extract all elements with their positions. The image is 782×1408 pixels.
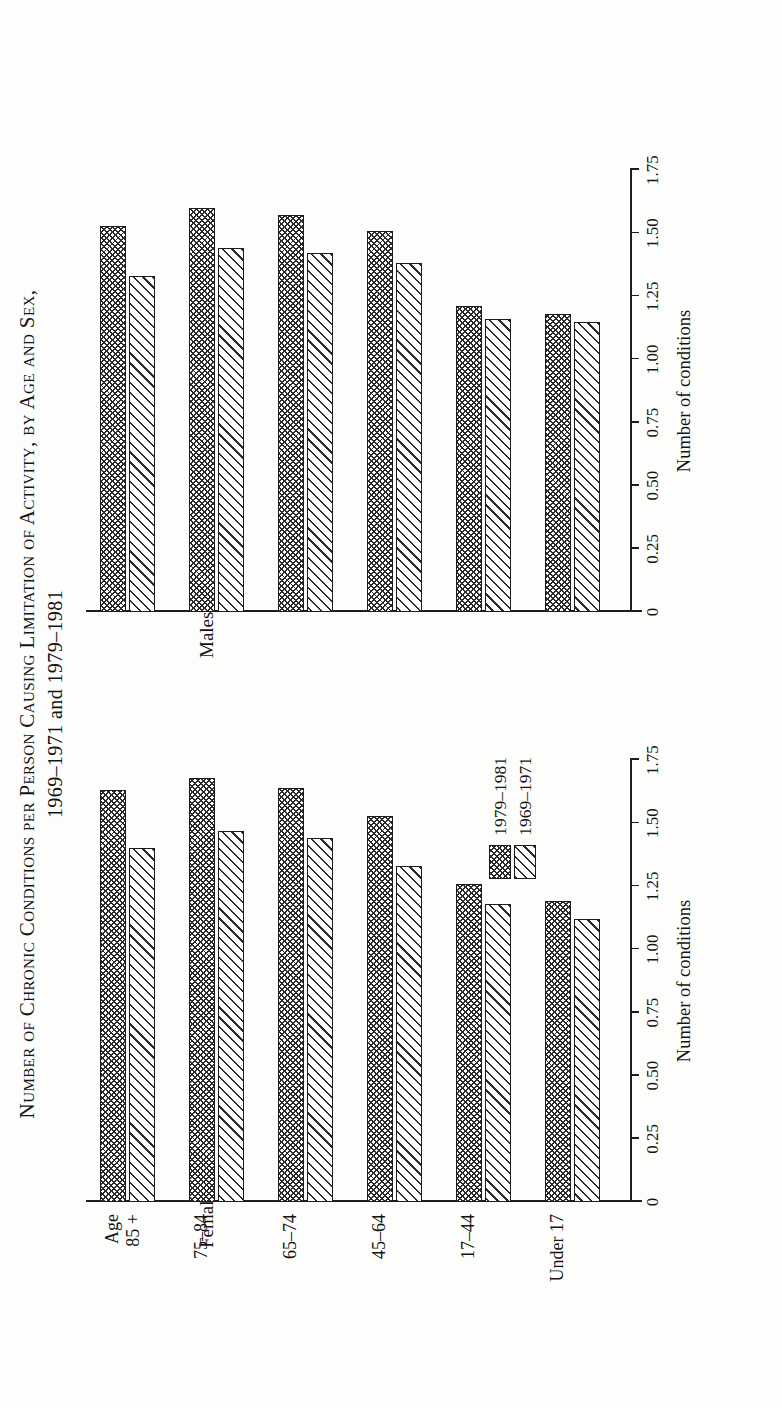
category-label-line2: 85 + [123, 1214, 144, 1247]
bar [100, 226, 126, 612]
axis-tick [630, 232, 639, 234]
x-axis-title-females: Number of conditions [674, 760, 695, 1202]
axis-tick-label: 1.25 [643, 281, 663, 311]
axis-tick [630, 547, 639, 549]
category-label-line1: 65–74 [280, 1214, 300, 1259]
axis-tick-label: 1.25 [643, 871, 663, 901]
plot-area-males [86, 170, 642, 612]
axis-tick-label: 0 [643, 1198, 663, 1207]
panel-title-males: Males [196, 612, 218, 658]
axis-tick [630, 822, 639, 824]
axis-tick-label: 1.50 [643, 808, 663, 838]
axis-tick [630, 295, 639, 297]
legend: 1979–19811969–1971 [489, 757, 539, 879]
axis-tick-label: 0.75 [643, 408, 663, 438]
bar [456, 884, 482, 1202]
legend-swatch-cross-hatch [489, 845, 511, 879]
axis-tick-label: 0 [643, 608, 663, 617]
bar [278, 215, 304, 612]
x-axis-males: Number of conditions 00.250.500.751.001.… [630, 170, 632, 612]
bar [545, 901, 571, 1202]
bar [307, 838, 333, 1202]
axis-tick [630, 1011, 639, 1013]
axis-tick [630, 168, 639, 170]
bar [278, 788, 304, 1202]
bar [456, 306, 482, 612]
axis-tick [630, 948, 639, 950]
axis-spine [630, 760, 632, 1202]
panel-males: Males Number of conditions 00.250.500.75… [78, 162, 782, 722]
bar [218, 248, 244, 612]
category-label: 45–64 [369, 1214, 390, 1259]
category-label: 75–84 [191, 1214, 212, 1259]
axis-tick-label: 0.25 [643, 1124, 663, 1154]
bar [189, 208, 215, 612]
bar-group: Age85 + [100, 760, 155, 1202]
bar [307, 253, 333, 612]
legend-item: 1969–1971 [514, 757, 536, 879]
axis-tick-label: 1.00 [643, 935, 663, 965]
bar [189, 778, 215, 1202]
axis-tick-label: 1.75 [643, 155, 663, 185]
legend-item: 1979–1981 [489, 757, 511, 879]
axis-tick [630, 1074, 639, 1076]
bar [100, 790, 126, 1202]
bar [129, 848, 155, 1202]
axis-tick [630, 1200, 639, 1202]
bar-group: 45–64 [367, 760, 422, 1202]
bar [367, 816, 393, 1202]
bar-group [189, 170, 244, 612]
bar-group [545, 170, 600, 612]
rotated-figure-canvas: Number of Chronic Conditions per Person … [0, 0, 782, 1408]
panels-container: Females Age85 +75–8465–7445–6417–44Under… [78, 0, 782, 1408]
bar-group [456, 170, 511, 612]
axis-tick [630, 421, 639, 423]
axis-tick [630, 758, 639, 760]
category-label-line1: 17–44 [458, 1214, 478, 1259]
figure: Number of Chronic Conditions per Person … [0, 0, 782, 1408]
axis-tick [630, 1137, 639, 1139]
axis-spine [630, 170, 632, 612]
category-label-line1: 45–64 [369, 1214, 389, 1259]
bar [485, 319, 511, 612]
axis-tick-label: 0.75 [643, 998, 663, 1028]
bar [218, 831, 244, 1202]
figure-title-line1: Number of Chronic Conditions per Person … [15, 290, 39, 1119]
bar [396, 866, 422, 1202]
bar [367, 231, 393, 612]
category-label: 65–74 [280, 1214, 301, 1259]
category-label: Age85 + [102, 1214, 144, 1247]
axis-tick-label: 1.75 [643, 745, 663, 775]
category-label-line1: Age [102, 1214, 122, 1244]
axis-tick [630, 358, 639, 360]
bar-group [367, 170, 422, 612]
axis-tick-label: 1.50 [643, 218, 663, 248]
x-axis-title-males: Number of conditions [674, 170, 695, 612]
axis-tick [630, 885, 639, 887]
bar-group: Under 17 [545, 760, 600, 1202]
bar [129, 276, 155, 612]
bar-group [278, 170, 333, 612]
bar-group: 65–74 [278, 760, 333, 1202]
bar [396, 263, 422, 612]
category-label-line1: Under 17 [547, 1214, 567, 1281]
legend-label: 1979–1981 [490, 757, 511, 836]
figure-title: Number of Chronic Conditions per Person … [14, 0, 68, 1408]
axis-tick [630, 610, 639, 612]
axis-tick-label: 0.50 [643, 1061, 663, 1091]
bar [485, 904, 511, 1202]
x-axis-females: Number of conditions 00.250.500.751.001.… [630, 760, 632, 1202]
axis-tick-label: 0.25 [643, 534, 663, 564]
category-label: 17–44 [458, 1214, 479, 1259]
bar-group: 75–84 [189, 760, 244, 1202]
bar [545, 314, 571, 612]
axis-tick-label: 1.00 [643, 345, 663, 375]
bar-group [100, 170, 155, 612]
axis-tick [630, 484, 639, 486]
axis-tick-label: 0.50 [643, 471, 663, 501]
figure-title-line2: 1969–1971 and 1979–1981 [42, 0, 68, 1408]
plot-area-females: Age85 +75–8465–7445–6417–44Under 17 [86, 760, 642, 1202]
category-label: Under 17 [547, 1214, 568, 1281]
legend-swatch-diagonal-hatch [514, 845, 536, 879]
legend-label: 1969–1971 [515, 757, 536, 836]
